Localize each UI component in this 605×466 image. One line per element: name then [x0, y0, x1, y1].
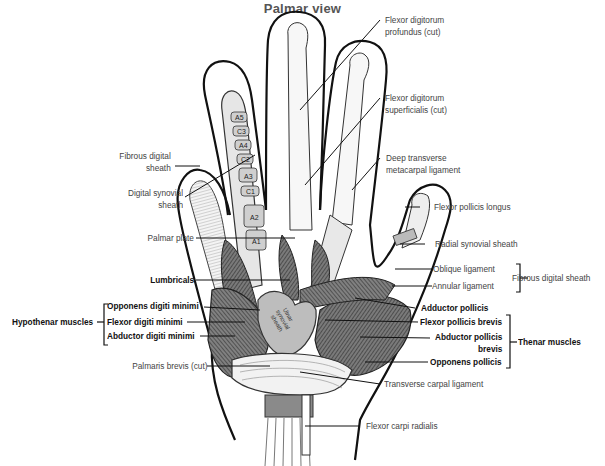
- label-fibrous-digital-sheath-group: Fibrous digital sheath: [512, 272, 590, 284]
- svg-text:A2: A2: [250, 214, 259, 221]
- label-palmaris-brevis: Palmaris brevis (cut): [132, 360, 207, 372]
- label-flexor-digiti-minimi: Flexor digiti minimi: [107, 316, 183, 328]
- svg-text:C2: C2: [241, 156, 250, 163]
- label-fds: Flexor digitorum superficialis (cut): [385, 92, 447, 116]
- label-palmar-plate: Palmar plate: [148, 232, 194, 244]
- svg-text:A4: A4: [239, 142, 248, 149]
- label-flexor-pollicis-brevis: Flexor pollicis brevis: [420, 316, 502, 328]
- svg-text:A5: A5: [235, 114, 244, 121]
- label-fibrous-digital-sheath: Fibrous digital sheath: [120, 150, 171, 174]
- label-opponens-digiti-minimi: Opponens digiti minimi: [107, 300, 199, 312]
- label-annular-ligament: Annular ligament: [432, 280, 494, 292]
- label-flexor-carpi-radialis: Flexor carpi radialis: [366, 420, 438, 432]
- label-abductor-digiti-minimi: Abductor digiti minimi: [107, 330, 195, 342]
- label-adductor-pollicis: Adductor pollicis: [421, 302, 488, 314]
- label-opponens-pollicis: Opponens pollicis: [430, 356, 502, 368]
- svg-text:A3: A3: [244, 173, 253, 180]
- svg-text:A1: A1: [252, 238, 261, 245]
- label-lumbricals: Lumbricals: [150, 274, 194, 286]
- label-deep-transverse-metacarpal-ligament: Deep transverse metacarpal ligament: [386, 152, 460, 176]
- label-hypothenar-muscles: Hypothenar muscles: [12, 316, 93, 328]
- label-flexor-pollicis-longus: Flexor pollicis longus: [434, 201, 511, 213]
- middle-finger-tendon: [288, 23, 312, 230]
- label-thenar-muscles: Thenar muscles: [518, 336, 581, 348]
- label-abductor-pollicis-brevis: Abductor pollicis brevis: [435, 331, 502, 355]
- lumbrical-muscle-2: [279, 235, 299, 300]
- svg-text:C1: C1: [246, 188, 255, 195]
- svg-text:C3: C3: [237, 128, 246, 135]
- transverse-carpal-ligament: [232, 353, 352, 395]
- hand-illustration: A5 C3 A4 C2 A3 C1 A2 A1 Ulnar synovial s…: [0, 0, 605, 466]
- label-fdp: Flexor digitorum profundus (cut): [385, 14, 444, 38]
- label-oblique-ligament: Oblique ligament: [433, 263, 495, 275]
- flexor-carpi-radialis-tendon: [302, 395, 310, 455]
- label-digital-synovial-sheath: Digital synovial sheath: [128, 187, 183, 211]
- label-transverse-carpal-ligament: Transverse carpal ligament: [384, 378, 483, 390]
- index-finger-tendon: [332, 53, 369, 225]
- label-radial-synovial-sheath: Radial synovial sheath: [435, 238, 518, 250]
